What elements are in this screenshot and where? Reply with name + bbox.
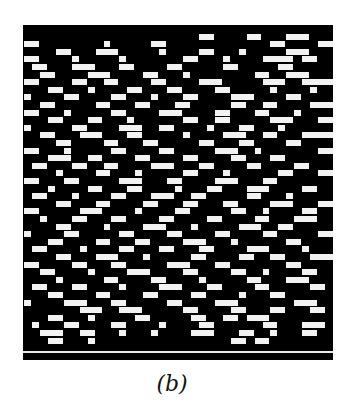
raster-cell <box>183 269 198 275</box>
raster-cell <box>215 87 230 93</box>
raster-cell <box>310 254 333 260</box>
raster-cell <box>64 110 71 116</box>
raster-cell <box>199 163 214 169</box>
raster-cell <box>143 140 158 146</box>
raster-cell <box>96 254 119 260</box>
raster-cell <box>111 94 126 100</box>
raster-cell <box>127 186 142 192</box>
raster-cell <box>56 140 71 146</box>
raster-cell <box>294 216 317 222</box>
raster-cell <box>183 239 206 245</box>
raster-cell <box>302 132 333 138</box>
raster-cell <box>80 307 103 313</box>
raster-cell <box>40 102 55 108</box>
raster-cell <box>294 300 317 306</box>
raster-cell <box>72 64 95 70</box>
raster-cell <box>111 262 126 268</box>
raster-cell <box>239 224 262 230</box>
raster-cell <box>64 322 79 328</box>
raster-cell <box>286 262 301 268</box>
raster-cell <box>72 262 87 268</box>
raster-cell <box>104 41 111 47</box>
raster-cell <box>104 224 111 230</box>
raster-cell <box>223 315 238 321</box>
raster-cell <box>167 64 182 70</box>
raster-cell <box>159 284 182 290</box>
raster-cell <box>151 79 166 85</box>
raster-cell <box>88 117 103 123</box>
raster-cell <box>270 41 285 47</box>
raster-cell <box>135 102 150 108</box>
raster-cell <box>231 208 246 214</box>
raster-cell <box>263 231 278 237</box>
raster-cell <box>64 94 79 100</box>
raster-cell <box>96 170 111 176</box>
raster-cell <box>207 216 222 222</box>
raster-cell <box>32 163 47 169</box>
raster-cell <box>183 117 198 123</box>
raster-cell <box>72 216 87 222</box>
raster-cell <box>96 239 111 245</box>
raster-cell <box>24 125 31 131</box>
raster-cell <box>239 330 254 336</box>
raster-cell <box>318 117 333 123</box>
raster-cell <box>119 56 126 62</box>
raster-cell <box>318 201 333 207</box>
raster-cell <box>80 246 87 252</box>
raster-cell <box>255 148 262 154</box>
raster-cell <box>183 170 198 176</box>
raster-cell <box>199 49 214 55</box>
raster-cell <box>72 163 87 169</box>
raster-cell <box>88 315 95 321</box>
raster-cell <box>56 277 63 283</box>
raster-cell <box>239 125 254 131</box>
raster-cell <box>88 72 111 78</box>
raster-cell <box>143 201 158 207</box>
raster-cell <box>215 231 230 237</box>
raster-cell <box>24 262 39 268</box>
raster-cell <box>231 102 246 108</box>
raster-cell <box>255 72 270 78</box>
raster-cell <box>111 110 126 116</box>
raster-cell <box>207 284 222 290</box>
raster-cell <box>183 132 190 138</box>
raster-cell <box>278 170 293 176</box>
raster-cell <box>111 193 126 199</box>
raster-cell <box>231 94 254 100</box>
raster-cell <box>263 56 294 62</box>
raster-cell <box>239 254 254 260</box>
raster-cell <box>111 148 126 154</box>
raster-cell <box>270 330 277 336</box>
raster-cell <box>318 148 333 154</box>
raster-cell <box>183 72 190 78</box>
raster-cell <box>270 155 285 161</box>
raster-cell <box>151 277 166 283</box>
raster-cell <box>239 140 254 146</box>
raster-cell <box>286 34 309 40</box>
raster-cell <box>199 322 214 328</box>
raster-cell <box>143 72 158 78</box>
raster-cell <box>48 239 63 245</box>
raster-cell <box>263 208 270 214</box>
raster-cell <box>24 148 39 154</box>
raster-cell <box>199 79 222 85</box>
raster-cell <box>255 338 270 344</box>
raster-cell <box>104 79 119 85</box>
raster-cell <box>135 170 142 176</box>
raster-cell <box>223 170 230 176</box>
raster-cell <box>111 322 126 328</box>
raster-cell <box>72 56 79 62</box>
raster-cell <box>191 292 206 298</box>
raster-cell <box>48 292 63 298</box>
binary-raster-pattern <box>23 25 333 360</box>
raster-cell <box>183 307 198 313</box>
raster-cell <box>56 201 71 207</box>
raster-cell <box>151 193 174 199</box>
raster-cell <box>318 41 333 47</box>
raster-cell <box>215 148 238 154</box>
raster-cell <box>263 178 278 184</box>
raster-cell <box>48 155 71 161</box>
raster-cell <box>111 216 126 222</box>
raster-cell <box>56 224 71 230</box>
raster-cell <box>286 239 301 245</box>
